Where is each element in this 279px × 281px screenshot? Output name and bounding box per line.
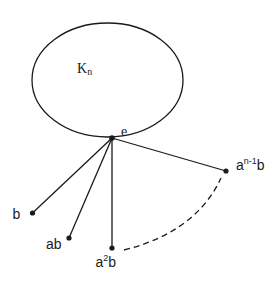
kn-cluster-ellipse <box>32 23 183 137</box>
edge-e-ab <box>69 138 112 238</box>
vertex-e-dot <box>109 135 115 141</box>
vertex-a2b-dot <box>109 245 114 250</box>
vertex-b-dot <box>30 210 35 215</box>
ellipsis-dashed-arc <box>124 178 221 250</box>
an1b-label-tail: b <box>257 157 265 173</box>
vertex-ab-dot <box>66 235 71 240</box>
vertex-e-label: e <box>121 124 127 139</box>
kn-label-sub: n <box>87 66 92 77</box>
a2b-label-main: a <box>96 254 104 270</box>
vertex-an1b-label: an-1b <box>236 156 265 173</box>
kn-label: Kn <box>77 61 92 77</box>
vertex-ab-label: ab <box>46 236 62 252</box>
a2b-label-tail: b <box>108 254 116 270</box>
kn-label-main: K <box>77 61 87 76</box>
vertex-a2b-label: a2b <box>96 253 117 270</box>
vertex-b-label: b <box>13 206 21 222</box>
graph-diagram: Kn e b ab a2b an-1b <box>0 0 279 281</box>
an1b-label-main: a <box>236 157 244 173</box>
edge-e-an1b <box>112 138 226 171</box>
edge-e-b <box>33 138 113 213</box>
vertex-an1b-dot <box>223 168 228 173</box>
an1b-label-sup: n-1 <box>244 156 257 166</box>
